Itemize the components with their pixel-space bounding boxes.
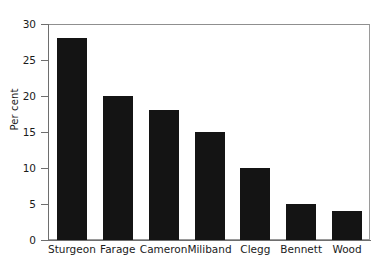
y-axis-tick (41, 24, 48, 25)
y-axis-tick-label: 30 (8, 19, 36, 30)
y-axis-tick (41, 204, 48, 205)
y-axis-tick-label: 20 (8, 91, 36, 102)
bar (57, 38, 87, 240)
y-axis-tick (41, 132, 48, 133)
x-axis-tick-label: Wood (302, 244, 387, 256)
y-axis-tick-label: 5 (8, 199, 36, 210)
y-axis-tick (41, 60, 48, 61)
x-axis-line (48, 240, 371, 241)
y-axis-tick-label: 25 (8, 55, 36, 66)
y-axis-tick (41, 96, 48, 97)
bar (195, 132, 225, 240)
y-axis-tick (41, 240, 48, 241)
bar (286, 204, 316, 240)
bar-chart: Per cent 051015202530 SturgeonFarageCame… (0, 0, 387, 273)
bar (332, 211, 362, 240)
bar (240, 168, 270, 240)
bar (149, 110, 179, 240)
y-axis-tick-label: 15 (8, 127, 36, 138)
bar-series (49, 24, 370, 240)
y-axis-tick-label: 10 (8, 163, 36, 174)
y-axis-tick (41, 168, 48, 169)
bar (103, 96, 133, 240)
